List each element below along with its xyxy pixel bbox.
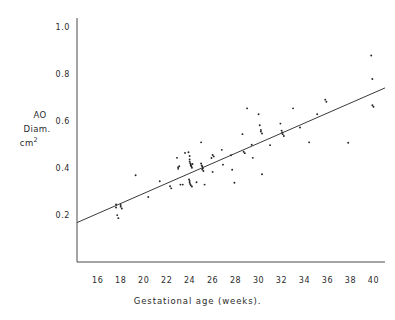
data-point bbox=[283, 135, 285, 137]
data-point bbox=[189, 161, 191, 163]
data-point bbox=[234, 182, 236, 184]
data-point bbox=[177, 168, 179, 170]
data-point bbox=[258, 113, 260, 115]
y-axis-title: AO Diam. cm2 bbox=[8, 108, 66, 150]
plot-canvas bbox=[0, 0, 395, 320]
data-point bbox=[281, 130, 283, 132]
data-point bbox=[246, 107, 248, 109]
y-axis-title-line-1: AO bbox=[8, 108, 66, 122]
data-point bbox=[211, 157, 213, 159]
data-point bbox=[244, 152, 246, 154]
data-point bbox=[170, 187, 172, 189]
data-point bbox=[189, 159, 191, 161]
data-point bbox=[347, 142, 349, 144]
x-tick-label: 34 bbox=[299, 276, 310, 285]
data-point bbox=[292, 107, 294, 109]
data-point bbox=[179, 184, 181, 186]
data-point bbox=[231, 169, 233, 171]
data-point bbox=[147, 196, 149, 198]
data-point bbox=[221, 149, 223, 151]
x-tick-label: 32 bbox=[276, 276, 287, 285]
data-point bbox=[135, 174, 137, 176]
y-tick-label: 0.2 bbox=[40, 211, 70, 220]
data-point bbox=[184, 152, 186, 154]
x-tick-label: 38 bbox=[345, 276, 356, 285]
data-points-group bbox=[115, 55, 374, 219]
data-point bbox=[121, 208, 123, 210]
data-point bbox=[212, 171, 214, 173]
data-point bbox=[201, 166, 203, 168]
data-point bbox=[192, 163, 194, 165]
data-point bbox=[191, 186, 193, 188]
data-point bbox=[299, 127, 301, 129]
x-tick-label: 40 bbox=[368, 276, 379, 285]
data-point bbox=[261, 173, 263, 175]
data-point bbox=[213, 155, 215, 157]
data-point bbox=[261, 132, 263, 134]
data-point bbox=[188, 151, 190, 153]
data-point bbox=[204, 184, 206, 186]
data-point bbox=[189, 155, 191, 157]
data-point bbox=[115, 204, 117, 206]
data-point bbox=[196, 181, 198, 183]
y-tick-label: 0.4 bbox=[40, 164, 70, 173]
data-point bbox=[324, 99, 326, 101]
x-tick-label: 16 bbox=[92, 276, 103, 285]
data-point bbox=[308, 141, 310, 143]
y-tick-label: 1.0 bbox=[40, 23, 70, 32]
axes-group bbox=[77, 18, 385, 262]
x-tick-label: 22 bbox=[161, 276, 172, 285]
data-point bbox=[169, 185, 171, 187]
data-point bbox=[260, 129, 262, 131]
data-point bbox=[373, 106, 375, 108]
data-point bbox=[282, 133, 284, 135]
data-point bbox=[159, 180, 161, 182]
y-axis-unit-exponent: 2 bbox=[34, 136, 39, 144]
data-point bbox=[191, 167, 193, 169]
y-axis-unit-text: cm bbox=[20, 138, 34, 148]
data-point bbox=[252, 157, 254, 159]
data-point bbox=[281, 132, 283, 134]
x-tick-label: 26 bbox=[207, 276, 218, 285]
data-point bbox=[117, 217, 119, 219]
data-point bbox=[251, 144, 253, 146]
data-point bbox=[182, 184, 184, 186]
y-axis-title-line-3: cm2 bbox=[8, 136, 66, 150]
data-point bbox=[202, 170, 204, 172]
data-point bbox=[120, 204, 122, 206]
data-point bbox=[222, 164, 224, 166]
data-point bbox=[242, 133, 244, 135]
x-axis-title: Gestational age (weeks). bbox=[0, 296, 395, 306]
data-point bbox=[188, 178, 190, 180]
x-tick-label: 24 bbox=[184, 276, 195, 285]
data-point bbox=[178, 165, 180, 167]
data-point bbox=[116, 214, 118, 216]
data-point bbox=[189, 180, 191, 182]
data-point bbox=[115, 207, 117, 209]
data-point bbox=[279, 123, 281, 125]
y-axis-title-line-2: Diam. bbox=[8, 122, 66, 136]
data-point bbox=[176, 157, 178, 159]
data-point bbox=[371, 78, 373, 80]
data-point bbox=[269, 144, 271, 146]
data-point bbox=[259, 124, 261, 126]
scatter-plot-figure: 0.20.40.60.81.0 161820222426283032343638… bbox=[0, 0, 395, 320]
x-tick-label: 18 bbox=[115, 276, 126, 285]
x-tick-label: 20 bbox=[138, 276, 149, 285]
data-point bbox=[316, 113, 318, 115]
x-tick-label: 36 bbox=[322, 276, 333, 285]
data-point bbox=[120, 206, 122, 208]
data-point bbox=[200, 141, 202, 143]
x-tick-label: 28 bbox=[230, 276, 241, 285]
data-point bbox=[230, 154, 232, 156]
x-tick-label: 30 bbox=[253, 276, 264, 285]
data-point bbox=[325, 101, 327, 103]
y-tick-label: 0.8 bbox=[40, 70, 70, 79]
data-point bbox=[370, 55, 372, 57]
data-point bbox=[260, 131, 262, 133]
data-point bbox=[200, 163, 202, 165]
